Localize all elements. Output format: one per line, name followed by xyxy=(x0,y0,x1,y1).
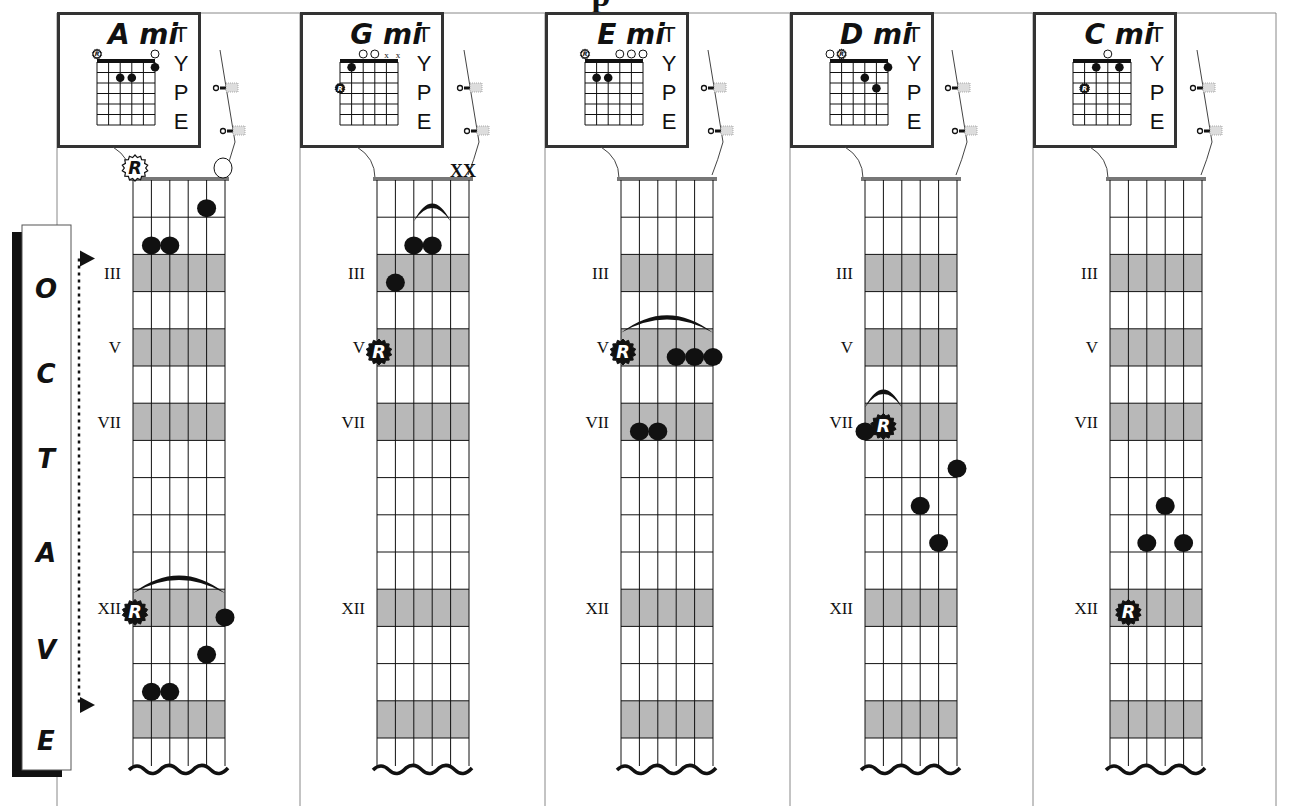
svg-text:R: R xyxy=(337,85,342,93)
finger-dot xyxy=(648,422,667,440)
finger-dot xyxy=(861,73,870,82)
fretboard: IIIVVIIXII xyxy=(585,177,717,774)
headstock-edge xyxy=(220,50,235,175)
svg-text:R: R xyxy=(372,342,386,362)
root-note-icon: R xyxy=(837,50,846,59)
svg-text:R: R xyxy=(839,50,844,57)
arrow-head-icon xyxy=(80,697,95,713)
shaded-fret xyxy=(865,254,957,291)
octave-letter: V xyxy=(36,635,58,665)
fret-marker-label: III xyxy=(1081,264,1098,283)
octave-letter: T xyxy=(37,444,57,474)
chord-panels: A miTYPERIIIVVIIXIIRRG miTYPExxRIIIVVIIX… xyxy=(59,14,1223,774)
finger-dot xyxy=(592,73,601,82)
finger-dot xyxy=(142,236,161,254)
fretboard-break xyxy=(373,765,472,773)
finger-dot xyxy=(704,348,723,366)
shaded-fret xyxy=(1110,329,1202,366)
octave-label-panel: OCTAVE xyxy=(12,225,95,777)
finger-dot xyxy=(911,497,930,515)
chord-name: D mi xyxy=(840,18,912,51)
root-note-icon: R xyxy=(581,50,590,59)
type-label-letter: E xyxy=(174,109,189,134)
fret-marker-label: III xyxy=(104,264,121,283)
finger-dot xyxy=(1137,534,1156,552)
fretboard-break xyxy=(861,765,960,773)
svg-text:R: R xyxy=(616,342,630,362)
chord-panel-c-mi: C miTYPERIIIVVIIXIIR xyxy=(1035,14,1223,774)
finger-dot xyxy=(197,199,216,217)
shaded-fret xyxy=(865,701,957,738)
fret-marker-label: V xyxy=(1086,338,1099,357)
finger-dot xyxy=(872,84,881,93)
muted-string-icon: x xyxy=(396,50,401,60)
shaded-fret xyxy=(133,403,225,440)
type-label-letter: Y xyxy=(907,51,922,76)
finger-dot xyxy=(160,236,179,254)
fret-marker-label: III xyxy=(836,264,853,283)
fret-marker-label: VII xyxy=(341,413,365,432)
type-label-letter: T xyxy=(1150,22,1163,47)
arrow-head-icon xyxy=(80,251,95,267)
fret-marker-label: VII xyxy=(829,413,853,432)
type-label-letter: T xyxy=(662,22,675,47)
fretboard-break xyxy=(1106,765,1205,773)
tuning-peg-icon xyxy=(1191,83,1216,92)
finger-dot xyxy=(685,348,704,366)
finger-dot xyxy=(1115,63,1124,72)
type-label-letter: Y xyxy=(174,51,189,76)
chord-panel-g-mi: G miTYPExxRIIIVVIIXIIXXR xyxy=(302,14,490,774)
shaded-fret xyxy=(1110,701,1202,738)
finger-dot xyxy=(160,683,179,701)
svg-text:R: R xyxy=(583,50,588,57)
root-note-icon: R xyxy=(1080,83,1090,93)
finger-dot xyxy=(404,236,423,254)
finger-dot xyxy=(604,73,613,82)
nut xyxy=(617,177,717,181)
headstock-edge xyxy=(708,50,723,175)
shaded-fret xyxy=(621,701,713,738)
finger-dot xyxy=(630,422,649,440)
type-label-letter: P xyxy=(662,80,677,105)
finger-dot xyxy=(197,646,216,664)
chord-panel-d-mi: D miTYPERIIIVVIIXIIR xyxy=(792,14,978,774)
shaded-fret xyxy=(133,701,225,738)
finger-dot xyxy=(1174,534,1193,552)
finger-dot xyxy=(884,63,893,72)
fret-marker-label: III xyxy=(592,264,609,283)
headstock-edge xyxy=(1197,50,1212,175)
finger-dot xyxy=(667,348,686,366)
fret-marker-label: III xyxy=(348,264,365,283)
shaded-fret xyxy=(133,254,225,291)
finger-dot xyxy=(948,460,967,478)
tuning-peg-icon xyxy=(709,126,734,135)
tuning-peg-icon xyxy=(465,126,490,135)
octave-letter: O xyxy=(35,274,57,304)
open-string-icon xyxy=(359,50,367,58)
muted-strings-label: XX xyxy=(450,161,476,181)
open-string-icon xyxy=(627,50,635,58)
type-label-letter: T xyxy=(417,22,430,47)
chord-name: C mi xyxy=(1084,18,1153,51)
tuning-peg-icon xyxy=(946,83,971,92)
root-note-icon: R xyxy=(335,83,345,93)
tuning-peg-icon xyxy=(1198,126,1223,135)
headstock-edge xyxy=(952,50,967,175)
finger-dot xyxy=(347,63,356,72)
fret-marker-label: XII xyxy=(341,599,365,618)
shaded-fret xyxy=(377,589,469,626)
shaded-fret xyxy=(621,254,713,291)
svg-text:R: R xyxy=(1082,85,1087,93)
finger-dot xyxy=(151,63,160,72)
fret-marker-label: XII xyxy=(97,599,121,618)
chord-shape-diagram: p OCTAVE A miTYPERIIIVVIIXIIRRG miTYPExx… xyxy=(0,0,1298,806)
fret-marker-label: XII xyxy=(585,599,609,618)
type-label-letter: P xyxy=(417,80,432,105)
tuning-peg-icon xyxy=(702,83,727,92)
fret-marker-label: VII xyxy=(585,413,609,432)
finger-dot xyxy=(423,236,442,254)
fret-marker-label: XII xyxy=(1074,599,1098,618)
nut xyxy=(861,177,961,181)
finger-dot xyxy=(386,274,405,292)
type-label-letter: T xyxy=(174,22,187,47)
